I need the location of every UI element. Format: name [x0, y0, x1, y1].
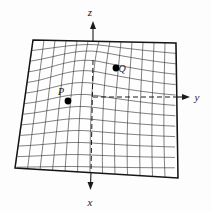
surface-plot-canvas: z: [0, 0, 211, 213]
surface-plot-figure: z: [0, 0, 211, 213]
axis-x-label: x: [87, 196, 93, 208]
surface-mesh: [15, 38, 178, 178]
axis-z-label: z: [87, 6, 93, 18]
point-Q-label: Q: [118, 63, 126, 74]
axis-y-label: y: [194, 91, 200, 103]
axis-y-arrowhead: [182, 94, 190, 100]
axis-x-arrowhead: [88, 182, 94, 190]
point-P-label: P: [57, 86, 64, 97]
point-P-dot: [65, 98, 72, 105]
axis-z-arrowhead: [90, 21, 96, 29]
